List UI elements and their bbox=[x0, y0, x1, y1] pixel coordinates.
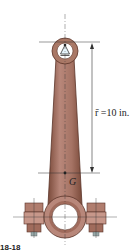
figure-label: 18-18 bbox=[0, 243, 20, 252]
center-of-mass-dot bbox=[64, 172, 67, 175]
center-of-mass-label: G bbox=[69, 176, 76, 187]
r-bar-label: r̄ =10 in. bbox=[95, 107, 129, 118]
